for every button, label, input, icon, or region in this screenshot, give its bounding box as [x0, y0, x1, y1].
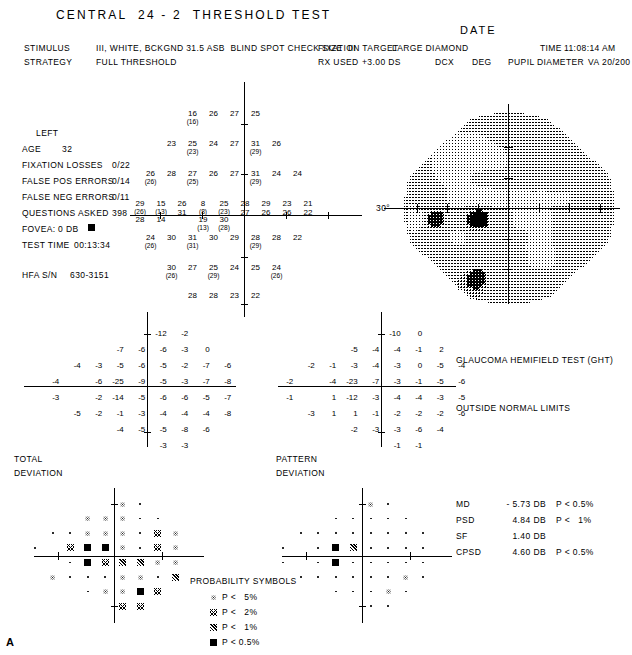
grayscale-stipple — [452, 242, 453, 243]
grayscale-stipple — [455, 242, 456, 243]
pattern-deviation-value: -4 — [404, 394, 422, 402]
grayscale-stipple — [443, 143, 444, 144]
grayscale-stipple — [554, 194, 555, 195]
pattern-deviation-value: -4 — [383, 346, 401, 354]
grayscale-stipple — [527, 236, 528, 237]
grayscale-stipple — [431, 164, 432, 165]
grayscale-stipple — [515, 191, 516, 192]
grayscale-stipple — [542, 263, 543, 264]
prob-symbol-normal — [405, 591, 407, 593]
grayscale-stipple — [607, 239, 608, 240]
grayscale-stipple — [464, 152, 465, 153]
grayscale-stipple — [491, 149, 492, 150]
grayscale-stipple — [500, 191, 501, 192]
grayscale-stipple — [503, 206, 504, 207]
grayscale-stipple — [461, 143, 462, 144]
pattern-deviation-value: -2 — [383, 410, 401, 418]
grayscale-stipple — [470, 298, 471, 299]
grayscale-stipple — [607, 242, 608, 243]
grayscale-stipple — [464, 137, 465, 138]
pattern-deviation-value: -3 — [383, 362, 401, 370]
grayscale-stipple — [443, 170, 444, 171]
grayscale-stipple — [518, 227, 519, 228]
grayscale-stipple — [449, 149, 450, 150]
legend-item-label: P < 2% — [222, 608, 257, 617]
grayscale-stipple — [452, 173, 453, 174]
grayscale-stipple — [548, 206, 549, 207]
prob-symbol-normal — [157, 576, 159, 578]
grayscale-stipple — [524, 245, 525, 246]
fovea-value: 0 DB — [58, 225, 79, 234]
grayscale-stipple — [461, 140, 462, 141]
grayscale-stipple — [458, 137, 459, 138]
grayscale-stipple — [548, 233, 549, 234]
grayscale-stipple — [416, 221, 417, 222]
grayscale-stipple — [476, 149, 477, 150]
grayscale-stipple — [545, 239, 546, 240]
pattern-deviation-value: -5 — [426, 378, 444, 386]
grayscale-stipple — [443, 161, 444, 162]
pattern-deviation-label-line2: DEVIATION — [276, 469, 325, 478]
grayscale-stipple — [551, 251, 552, 252]
prob-symbol-p5 — [403, 575, 408, 580]
grayscale-stipple — [458, 152, 459, 153]
ght-result: OUTSIDE NORMAL LIMITS — [456, 404, 570, 413]
grayscale-stipple — [461, 197, 462, 198]
prob-symbol-normal — [370, 518, 372, 520]
grayscale-stipple — [455, 188, 456, 189]
grayscale-stipple — [413, 221, 414, 222]
prob-symbol-p05 — [137, 588, 144, 595]
grayscale-stipple — [455, 197, 456, 198]
grayscale-stipple — [491, 206, 492, 207]
grayscale-stipple — [446, 140, 447, 141]
grayscale-stipple — [464, 176, 465, 177]
grayscale-stipple — [458, 194, 459, 195]
grayscale-stipple — [473, 143, 474, 144]
total-deviation-value: 0 — [192, 346, 210, 354]
eye-label: LEFT — [36, 129, 58, 138]
grayscale-stipple — [530, 209, 531, 210]
grayscale-stipple — [551, 263, 552, 264]
tdp-tick — [162, 552, 163, 560]
grayscale-stipple — [536, 233, 537, 234]
prob-symbol-p05 — [332, 544, 339, 551]
grayscale-stipple — [542, 230, 543, 231]
grayscale-stipple — [533, 209, 534, 210]
grayscale-stipple — [545, 242, 546, 243]
grayscale-stipple — [476, 140, 477, 141]
pattern-deviation-value: -3 — [297, 410, 315, 418]
prob-symbol-normal — [405, 547, 407, 549]
global-index-value: 4.84 DB — [490, 516, 546, 525]
grayscale-stipple — [449, 203, 450, 204]
grayscale-stipple — [458, 203, 459, 204]
pattern-deviation-value: -3 — [361, 394, 379, 402]
grayscale-stipple — [512, 224, 513, 225]
grayscale-stipple — [500, 206, 501, 207]
grayscale-stipple — [458, 239, 459, 240]
total-deviation-value: -8 — [213, 410, 231, 418]
grayscale-stipple — [449, 173, 450, 174]
grayscale-stipple — [571, 140, 572, 141]
grayscale-stipple — [446, 170, 447, 171]
pattern-deviation-value: -5 — [426, 362, 444, 370]
grayscale-stipple — [542, 233, 543, 234]
grayscale-stipple — [437, 173, 438, 174]
grayscale-stipple — [446, 152, 447, 153]
grayscale-stipple — [542, 236, 543, 237]
grayscale-stipple — [467, 158, 468, 159]
grayscale-stipple — [536, 218, 537, 219]
grayscale-stipple — [470, 185, 471, 186]
grayscale-stipple — [455, 158, 456, 159]
grayscale-stipple — [524, 221, 525, 222]
prob-symbol-normal — [387, 518, 389, 520]
grayscale-stipple — [482, 146, 483, 147]
grayscale-stipple — [488, 200, 489, 201]
grayscale-stipple — [443, 182, 444, 183]
grayscale-stipple — [515, 212, 516, 213]
prob-symbol-normal — [139, 503, 141, 505]
legend-title: PROBABILITY SYMBOLS — [190, 577, 297, 586]
false-pos-label: FALSE POS ERRORS — [22, 177, 114, 186]
grayscale-stipple — [497, 158, 498, 159]
threshold-tick — [328, 212, 329, 219]
grayscale-stipple — [455, 239, 456, 240]
